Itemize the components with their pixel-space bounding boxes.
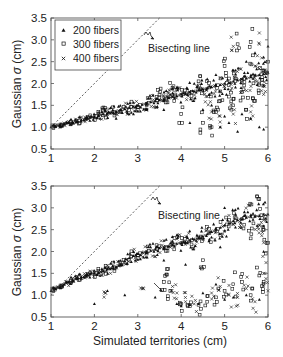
data-point <box>184 296 187 299</box>
data-point <box>246 118 249 121</box>
data-point <box>262 288 265 291</box>
data-point <box>247 96 250 99</box>
data-point <box>175 97 178 100</box>
data-point <box>241 273 244 276</box>
data-point <box>193 82 196 85</box>
x-axis-title: Simulated territories (cm) <box>93 334 227 348</box>
y-tick-label: 3.5 <box>31 12 47 24</box>
data-point <box>218 237 221 240</box>
data-point <box>200 79 203 82</box>
data-point <box>236 43 239 46</box>
y-tick-label: 0.5 <box>31 143 47 155</box>
data-point <box>249 110 252 113</box>
data-point <box>158 251 161 254</box>
data-point <box>263 80 266 83</box>
data-point <box>262 93 265 96</box>
data-point <box>264 277 267 280</box>
data-point <box>258 231 261 234</box>
data-point <box>213 303 216 306</box>
data-point <box>248 80 251 83</box>
data-point <box>255 208 258 211</box>
data-point <box>231 287 234 290</box>
data-point <box>234 86 237 89</box>
data-point <box>234 213 237 216</box>
data-point <box>201 92 204 95</box>
data-point <box>201 108 204 111</box>
data-point <box>223 65 226 68</box>
data-point <box>260 73 263 76</box>
x-tick-label: 3 <box>135 152 141 164</box>
data-point <box>249 41 252 44</box>
data-point <box>250 104 253 107</box>
data-point <box>262 241 265 244</box>
y-tick-label: 3.5 <box>31 180 47 192</box>
pointer-arrow-bottom <box>154 283 161 290</box>
data-point <box>227 84 230 87</box>
data-point <box>232 104 235 107</box>
data-point <box>109 272 112 275</box>
data-point <box>133 248 136 251</box>
data-point <box>232 283 235 286</box>
data-point <box>215 301 218 304</box>
y-tick-label: 2.0 <box>31 246 47 258</box>
figure: Gaussian σ (cm) Gaussian σ (cm) 1234560.… <box>0 0 283 357</box>
data-point <box>209 100 212 103</box>
data-point <box>188 121 191 124</box>
data-point <box>252 72 255 75</box>
data-point <box>236 304 239 307</box>
data-point <box>165 238 168 241</box>
data-point <box>236 296 239 299</box>
data-point <box>180 237 183 240</box>
data-point <box>207 103 210 106</box>
data-point <box>160 239 163 242</box>
data-point <box>260 89 263 92</box>
data-point <box>222 279 225 282</box>
data-point <box>97 267 100 270</box>
data-point <box>210 298 213 301</box>
data-point <box>103 296 106 299</box>
data-point <box>183 89 186 92</box>
data-point <box>214 283 217 286</box>
data-point <box>217 276 220 279</box>
data-point <box>256 266 259 269</box>
data-point <box>159 87 162 90</box>
data-point <box>204 100 207 103</box>
data-point <box>193 94 196 97</box>
data-point <box>225 235 228 238</box>
data-point <box>234 122 237 125</box>
y-tick-label: 3.0 <box>31 34 47 46</box>
data-point <box>236 70 239 73</box>
data-point <box>179 101 182 104</box>
data-point <box>235 32 238 35</box>
data-point <box>163 91 166 94</box>
data-point <box>214 73 217 76</box>
data-point <box>181 122 184 125</box>
data-point <box>199 307 202 310</box>
data-point <box>211 287 214 290</box>
data-point <box>154 296 157 299</box>
data-point <box>258 31 261 34</box>
data-point <box>254 228 257 231</box>
y-axis-title-top: Gaussian σ (cm) <box>10 40 24 129</box>
data-point <box>228 214 231 217</box>
data-point <box>227 225 230 228</box>
data-point <box>262 128 265 131</box>
data-point <box>223 206 226 209</box>
data-point <box>252 212 255 215</box>
x-tick-label: 2 <box>91 320 97 332</box>
data-point <box>198 313 201 316</box>
y-tick-label: 1.0 <box>31 121 47 133</box>
data-point <box>260 221 263 224</box>
data-point <box>264 75 267 78</box>
data-point <box>246 210 249 213</box>
data-point <box>248 219 251 222</box>
data-point <box>227 121 230 124</box>
data-point <box>202 121 205 124</box>
data-point <box>262 291 265 294</box>
data-point <box>168 281 171 284</box>
data-point <box>243 71 246 74</box>
data-point <box>254 311 257 314</box>
data-point <box>169 81 172 84</box>
data-point <box>127 260 130 263</box>
data-point <box>204 304 207 307</box>
